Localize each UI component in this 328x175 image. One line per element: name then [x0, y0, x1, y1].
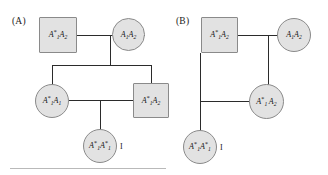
- mating-line-father-daughter-b: [200, 101, 250, 102]
- pedigree-figure: (A) A*1A2 A1A2 A*1A1 A*1A2 A*1A*1 I (B) …: [0, 0, 328, 175]
- proband-label-a: I: [120, 142, 123, 151]
- descent-line-child-a: [100, 100, 101, 130]
- bottom-rule: [10, 168, 166, 169]
- proband-label-b: I: [220, 143, 223, 152]
- sibling-drop-son-a: [151, 65, 152, 85]
- individual-b-father[interactable]: A*1A2: [201, 17, 238, 53]
- genotype-b-daughter: A*1A2: [256, 98, 276, 106]
- genotype-b-child: A*1A*1: [189, 143, 211, 151]
- panel-label-a: (A): [12, 16, 26, 26]
- genotype-a-mother: A1A2: [121, 31, 137, 39]
- genotype-a-son: A*1A2: [142, 97, 161, 105]
- individual-b-mother[interactable]: A1A2: [277, 18, 311, 52]
- consanguinity-line-b: [200, 53, 201, 140]
- descent-line-daughter-b: [268, 35, 269, 85]
- sibship-bar-a: [52, 65, 152, 66]
- genotype-a-child: A*1A*1: [89, 142, 111, 150]
- panel-label-b: (B): [176, 16, 189, 26]
- individual-b-daughter[interactable]: A*1A2: [249, 84, 284, 119]
- sibling-drop-daughter-a: [52, 65, 53, 85]
- mating-line-sibs-a: [69, 100, 134, 101]
- genotype-b-mother: A1A2: [286, 31, 302, 39]
- individual-a-son[interactable]: A*1A2: [133, 83, 169, 118]
- genotype-a-daughter: A*1A1: [43, 97, 62, 105]
- individual-a-child[interactable]: A*1A*1: [83, 129, 117, 163]
- genotype-a-father: A*1A2: [49, 31, 68, 39]
- genotype-b-father: A*1A2: [210, 31, 229, 39]
- individual-a-daughter[interactable]: A*1A1: [35, 84, 69, 118]
- descent-line-a: [110, 35, 111, 66]
- individual-b-child[interactable]: A*1A*1: [183, 130, 217, 164]
- individual-a-mother[interactable]: A1A2: [112, 18, 145, 51]
- individual-a-father[interactable]: A*1A2: [39, 17, 77, 53]
